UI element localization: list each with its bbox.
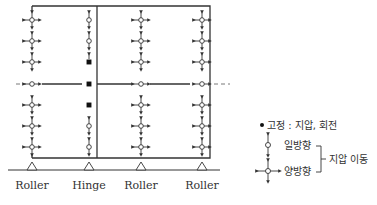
fixed-bearing-icon <box>260 123 264 127</box>
supports: RollerHingeRollerRoller <box>15 162 219 192</box>
support-roller: Roller <box>124 162 158 192</box>
legend-fixed-label: 고정 : 지압, 회전 <box>267 119 337 131</box>
support-triangle-icon <box>136 162 146 170</box>
two-way-bearing-node <box>24 33 40 49</box>
fixed-bearing-node <box>87 82 91 86</box>
legend: 고정 : 지압, 회전 일방향 양방향 지압 이동 <box>257 119 368 182</box>
two-way-bearing-node <box>133 118 149 134</box>
two-way-bearing-node <box>194 54 210 70</box>
two-way-bearing-node <box>194 118 210 134</box>
two-way-bearing-node <box>24 139 40 155</box>
support-label: Hinge <box>72 179 106 192</box>
two-way-bearing-node <box>133 54 149 70</box>
structure-frame <box>32 6 210 158</box>
support-label: Roller <box>124 179 158 192</box>
one-way-bearing-node <box>87 118 92 134</box>
support-hinge: Hinge <box>72 162 106 192</box>
one-way-bearing-node <box>87 33 92 49</box>
bearing-diagram: RollerHingeRollerRoller 고정 : 지압, 회전 일방향 … <box>0 0 377 205</box>
two-way-bearing-node <box>24 97 40 113</box>
two-way-bearing-node <box>24 118 40 134</box>
two-way-bearing-node <box>133 97 149 113</box>
support-triangle-icon <box>27 162 37 170</box>
support-label: Roller <box>185 179 219 192</box>
support-triangle-icon <box>84 162 94 170</box>
support-triangle-icon <box>197 162 207 170</box>
fixed-bearing-node <box>87 103 91 107</box>
legend-bracket <box>316 146 321 172</box>
two-way-bearing-node <box>194 12 210 28</box>
legend-two-way-label: 양방향 <box>284 166 311 177</box>
fixed-bearing-node <box>87 54 91 64</box>
two-way-bearing-icon <box>257 160 280 182</box>
two-way-bearing-node <box>24 54 40 70</box>
two-way-bearing-node <box>24 12 40 28</box>
one-way-bearing-node <box>24 82 40 87</box>
legend-bracket-label: 지압 이동 <box>329 153 368 165</box>
support-label: Roller <box>15 179 49 192</box>
two-way-bearing-node <box>133 139 149 155</box>
two-way-bearing-node <box>194 139 210 155</box>
one-way-bearing-icon <box>266 134 271 156</box>
one-way-bearing-node <box>133 82 149 87</box>
support-roller: Roller <box>185 162 219 192</box>
one-way-bearing-node <box>87 12 92 28</box>
one-way-bearing-node <box>194 82 210 87</box>
two-way-bearing-node <box>133 33 149 49</box>
legend-one-way-label: 일방향 <box>284 140 311 151</box>
support-roller: Roller <box>15 162 49 192</box>
one-way-bearing-node <box>87 139 92 155</box>
two-way-bearing-node <box>194 97 210 113</box>
two-way-bearing-node <box>133 12 149 28</box>
two-way-bearing-node <box>194 33 210 49</box>
